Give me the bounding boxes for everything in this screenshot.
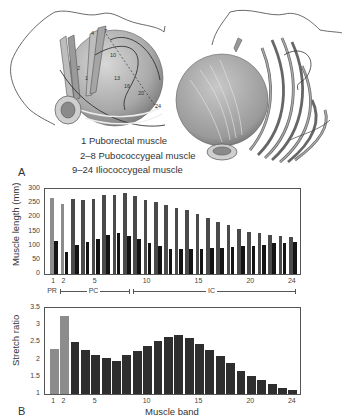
y-tick-label: 2 (18, 355, 40, 362)
y-tick-label: 150 (18, 227, 40, 234)
bar-stretched-length (61, 204, 65, 274)
bar-resting-length (54, 241, 58, 274)
bar-stretch-ratio (50, 349, 59, 394)
x-tick-label: 15 (190, 277, 206, 284)
bar-stretched-length (185, 210, 189, 274)
bar-resting-length (272, 243, 276, 274)
bar-stretch-ratio (278, 388, 287, 394)
bar-resting-length (148, 243, 152, 274)
bar-stretched-length (247, 232, 251, 275)
legend-pubococcygeal: 2–8 Pubococcygeal muscle (80, 150, 196, 161)
band-marker-24: 24 (155, 103, 161, 109)
bar-stretch-ratio (185, 338, 194, 394)
x-tick-label: 24 (284, 397, 300, 404)
plot-area (44, 188, 301, 275)
bar-stretch-ratio (122, 355, 131, 394)
bar-resting-length (220, 248, 224, 274)
bar-stretch-ratio (60, 316, 69, 394)
bar-stretch-ratio (81, 350, 90, 394)
bar-stretched-length (268, 235, 272, 274)
bar-resting-length (200, 249, 204, 274)
bar-resting-length (283, 243, 287, 274)
x-tick-label: 20 (242, 277, 258, 284)
bar-stretch-ratio (195, 344, 204, 394)
bar-stretch-ratio (102, 358, 111, 394)
anatomical-illustration-panel: 4 7 10 13 16 20 24 2 1 (0, 0, 348, 178)
x-tick-label: 5 (87, 277, 103, 284)
group-label-ic: IC (206, 287, 217, 294)
band-marker-7: 7 (104, 28, 107, 34)
band-marker-1: 1 (85, 75, 88, 81)
x-tick-label: 10 (139, 277, 155, 284)
x-tick-label: 15 (190, 397, 206, 404)
bar-resting-length (179, 249, 183, 274)
group-label-pr: PR (47, 287, 57, 294)
bar-stretch-ratio (91, 355, 100, 394)
bar-resting-length (189, 249, 193, 274)
y-tick-label: 1.5 (18, 372, 40, 379)
bar-resting-length (86, 242, 90, 274)
bar-stretch-ratio (205, 350, 214, 394)
bar-resting-length (262, 245, 266, 274)
x-tick-label: 10 (139, 397, 155, 404)
bar-stretched-length (216, 222, 220, 274)
bar-stretched-length (289, 237, 293, 274)
legend-iliococcygeal: 9–24 Iliococcygeal muscle (72, 164, 183, 175)
plot-area (44, 307, 301, 395)
x-tick-label: 24 (284, 277, 300, 284)
band-marker-4: 4 (91, 30, 94, 36)
bar-stretched-length (227, 225, 231, 274)
y-tick-label: 0 (18, 269, 40, 276)
bar-series (45, 189, 300, 274)
band-marker-10: 10 (110, 52, 116, 58)
bar-stretched-length (123, 193, 127, 274)
group-bracket-tick (295, 289, 296, 294)
bar-resting-length (117, 233, 121, 274)
bar-stretched-length (154, 202, 158, 274)
legend-puborectal: 1 Puborectal muscle (81, 135, 167, 146)
bar-resting-length (75, 245, 79, 274)
x-tick-label: 5 (87, 397, 103, 404)
panel-label-a: A (18, 166, 25, 178)
group-label-pc: PC (87, 287, 101, 294)
group-bracket-tick (60, 289, 61, 294)
bar-resting-length (96, 239, 100, 274)
bar-stretched-length (206, 218, 210, 274)
bar-stretched-length (50, 198, 54, 275)
bar-stretched-length (279, 236, 283, 274)
bar-stretch-ratio (268, 384, 277, 394)
y-tick-label: 2.5 (18, 337, 40, 344)
group-bracket-tick (133, 289, 134, 294)
bar-stretched-length (71, 199, 75, 274)
bar-stretch-ratio (288, 390, 297, 394)
bar-stretched-length (113, 195, 117, 274)
bar-stretch-ratio (143, 346, 152, 394)
y-tick-label: 3 (18, 320, 40, 327)
y-tick-label: 50 (18, 255, 40, 262)
stretch-ratio-chart: Stretch ratio 11.522.533.5 12510152024 M… (0, 300, 348, 420)
bar-resting-length (293, 242, 297, 274)
bar-stretch-ratio (226, 363, 235, 394)
bar-stretch-ratio (247, 376, 256, 394)
band-marker-16: 16 (124, 83, 130, 89)
bar-resting-length (106, 235, 110, 274)
x-tick-label: 2 (56, 397, 72, 404)
x-tick-label: 2 (56, 277, 72, 284)
bar-stretched-length (144, 200, 148, 274)
bar-stretched-length (164, 205, 168, 274)
y-tick-label: 3.5 (18, 303, 40, 310)
bar-stretched-length (175, 208, 179, 274)
panel-label-b: B (18, 405, 25, 417)
group-bracket-tick (129, 289, 130, 294)
bar-stretch-ratio (174, 335, 183, 394)
x-axis-label: Muscle band (145, 406, 199, 417)
bar-resting-length (169, 249, 173, 275)
bar-resting-length (65, 252, 69, 274)
bar-stretched-length (133, 196, 137, 274)
band-marker-2: 2 (77, 65, 80, 71)
bar-stretch-ratio (164, 337, 173, 394)
bar-resting-length (210, 248, 214, 274)
band-marker-20: 20 (138, 90, 144, 96)
bar-stretch-ratio (71, 342, 80, 394)
bar-stretch-ratio (237, 371, 246, 394)
